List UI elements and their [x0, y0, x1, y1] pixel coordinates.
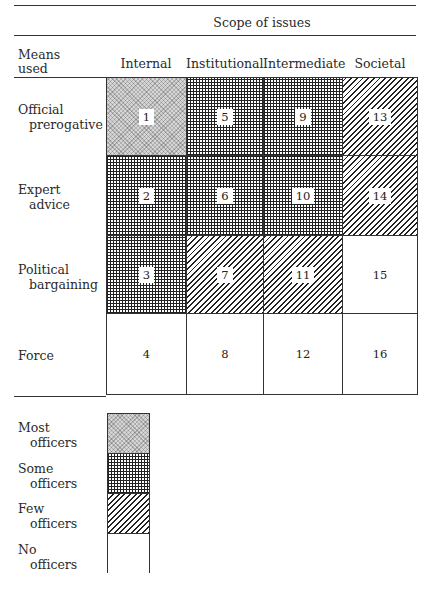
cell-12: 12: [263, 313, 343, 395]
cell-11: 11: [263, 235, 343, 314]
column-header-rule: [14, 77, 106, 78]
cell-number: 3: [139, 267, 154, 283]
cell-9: 9: [263, 77, 343, 156]
header-rule: [14, 35, 416, 36]
column-header-societal: Societal: [342, 56, 418, 71]
cell-6: 6: [186, 155, 264, 236]
legend-swatch-few: [108, 494, 149, 534]
legend-label-some-1: Some: [18, 461, 53, 476]
cell-number: 13: [369, 109, 392, 125]
cell-number: 16: [369, 346, 392, 362]
row-label-expert-2: advice: [29, 197, 70, 212]
legend-label-none-2: officers: [30, 557, 77, 572]
cell-7: 7: [186, 235, 264, 314]
cell-13: 13: [342, 77, 418, 156]
cell-10: 10: [263, 155, 343, 236]
cell-number: 8: [217, 346, 232, 362]
row-label-official-2: prerogative: [29, 117, 103, 132]
bottom-rule: [14, 396, 106, 397]
legend-swatch-some: [108, 454, 149, 494]
cell-number: 9: [295, 109, 310, 125]
cell-number: 5: [217, 109, 232, 125]
row-header-line2: used: [18, 61, 48, 76]
legend-swatch-none: [108, 534, 149, 574]
cell-4: 4: [106, 313, 187, 395]
top-rule: [14, 5, 416, 6]
cell-15: 15: [342, 235, 418, 314]
cell-8: 8: [186, 313, 264, 395]
legend-label-some-2: officers: [30, 476, 77, 491]
scope-title: Scope of issues: [106, 15, 418, 30]
cell-5: 5: [186, 77, 264, 156]
row-label-expert-1: Expert: [18, 182, 61, 197]
cell-number: 1: [139, 109, 154, 125]
legend-swatch-column: [107, 413, 150, 573]
column-header-intermediate: Intermediate: [263, 56, 342, 71]
cell-2: 2: [106, 155, 187, 236]
legend-swatch-most: [108, 414, 149, 454]
legend-label-none-1: No: [18, 542, 36, 557]
cell-1: 1: [106, 77, 187, 156]
cell-number: 7: [217, 267, 232, 283]
matrix-grid: 1 2 3 4 5 6 7 8 9 10 11 12 13 14 15 16: [106, 77, 418, 395]
legend-label-most-2: officers: [30, 435, 77, 450]
row-header-line1: Means: [18, 47, 60, 62]
cell-3: 3: [106, 235, 187, 314]
legend-label-few-1: Few: [18, 501, 44, 516]
cell-number: 14: [369, 188, 392, 204]
cell-number: 11: [292, 267, 315, 283]
cell-number: 10: [292, 188, 315, 204]
cell-number: 15: [369, 267, 392, 283]
row-label-official-1: Official: [18, 102, 64, 117]
cell-number: 6: [217, 188, 232, 204]
column-header-internal: Internal: [106, 56, 186, 71]
cell-16: 16: [342, 313, 418, 395]
cell-number: 2: [139, 188, 154, 204]
cell-number: 4: [139, 346, 154, 362]
cell-number: 12: [292, 346, 315, 362]
column-header-institutional: Institutional: [186, 56, 263, 71]
legend-label-few-2: officers: [30, 516, 77, 531]
cell-14: 14: [342, 155, 418, 236]
row-label-political-1: Political: [18, 262, 69, 277]
legend-label-most-1: Most: [18, 420, 50, 435]
row-label-force: Force: [18, 348, 54, 363]
row-label-political-2: bargaining: [29, 277, 98, 292]
